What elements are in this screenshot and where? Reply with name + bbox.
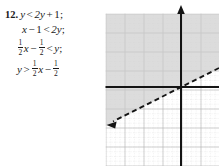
solution-step-1: 12.y<2y+1; <box>5 9 63 21</box>
step-1-rhs-op: + <box>45 8 54 20</box>
step-3-fraction-2-denominator: 2 <box>39 49 45 57</box>
step-4-fraction-2-denominator: 2 <box>53 70 59 78</box>
step-3-fraction-1: 12 <box>17 39 24 57</box>
step-1-terminator: ; <box>60 8 63 20</box>
step-4-relation: > <box>22 63 31 75</box>
solution-step-2: x−1<2y; <box>22 24 65 35</box>
graph-svg <box>103 0 219 166</box>
grid-overlay <box>106 14 220 167</box>
step-4-fraction-1-numerator: 1 <box>32 60 38 68</box>
step-2-terminator: ; <box>62 23 65 35</box>
step-3-fraction-2-numerator: 1 <box>39 39 45 47</box>
solution-step-4: y>12x−12 <box>17 60 59 78</box>
step-1-rhs-term1: 2y <box>34 8 45 20</box>
step-4-fraction-2: 12 <box>52 60 59 78</box>
step-2-lhs-op: − <box>27 23 36 35</box>
step-4-fraction-1-denominator: 2 <box>32 70 38 78</box>
exercise-figure: 12.y<2y+1; x−1<2y; 12x−12<y; y>12x−12 <box>0 0 219 166</box>
step-4-op: − <box>43 63 52 75</box>
step-3-fraction-1-denominator: 2 <box>18 49 24 57</box>
step-3-fraction-2: 12 <box>38 39 45 57</box>
coordinate-graph <box>103 0 219 166</box>
exercise-number: 12. <box>5 9 18 20</box>
step-3-op: − <box>29 42 38 54</box>
step-3-relation: < <box>45 42 54 54</box>
step-3-terminator: ; <box>59 42 62 54</box>
step-4-fraction-2-numerator: 1 <box>53 60 59 68</box>
major-gridlines-overlay <box>106 14 220 167</box>
solution-step-3: 12x−12<y; <box>17 39 62 57</box>
step-3-fraction-1-numerator: 1 <box>18 39 24 47</box>
step-2-relation: < <box>42 23 51 35</box>
y-axis-arrow-icon <box>177 5 185 14</box>
step-2-rhs: 2y <box>51 23 62 35</box>
solution-steps: 12.y<2y+1; x−1<2y; 12x−12<y; y>12x−12 <box>0 0 103 166</box>
